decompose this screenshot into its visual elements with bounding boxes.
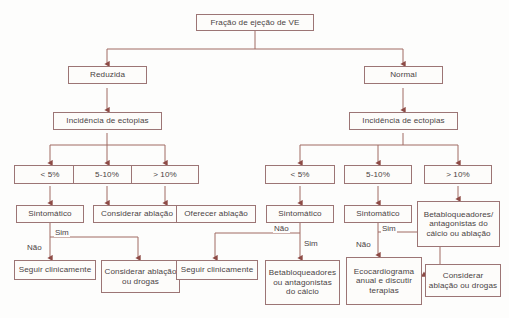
node-right-consider-ablation-drugs[interactable]: Considerar ablação ou drogas xyxy=(425,264,501,297)
edge-label-left-no: Não xyxy=(26,243,43,252)
node-left-pct-mid-label: 5-10% xyxy=(95,170,119,180)
node-right-betablockers-ablation[interactable]: Betabloqueadores/ antagonistas do cálcio… xyxy=(417,201,500,247)
node-right-branch-label: Normal xyxy=(390,70,417,80)
node-right-consider-ablation-drugs-label: Considerar ablação ou drogas xyxy=(428,271,498,290)
node-right-betablockers-ablation-label: Betabloqueadores/ antagonistas do cálcio… xyxy=(420,210,497,239)
node-left-consider-ablation-drugs-label: Considerar ablação ou drogas xyxy=(104,267,177,286)
node-right-symptomatic-low[interactable]: Sintomático xyxy=(266,205,334,223)
flowchart-canvas: Fração de ejeção de VE Reduzida Normal I… xyxy=(0,0,509,318)
node-right-echo-annual-label: Ecocardiograma anual e discutir terapias xyxy=(349,267,419,296)
node-right-ectopy-label: Incidência de ectopias xyxy=(362,116,444,126)
node-right-betablockers-calcium[interactable]: Betabloqueadores ou antagonistas do cálc… xyxy=(265,260,340,305)
node-left-branch[interactable]: Reduzida xyxy=(68,66,147,84)
node-left-symptomatic[interactable]: Sintomático xyxy=(16,205,84,223)
node-left-ectopy-label: Incidência de ectopias xyxy=(66,116,148,126)
node-left-offer-ablation[interactable]: Oferecer ablação xyxy=(176,205,256,223)
node-left-pct-low-label: < 5% xyxy=(40,170,59,180)
edge-label-right-mid-no: Não xyxy=(355,240,372,249)
node-right-symptomatic-mid-label: Sintomático xyxy=(356,209,399,219)
node-right-pct-mid[interactable]: 5-10% xyxy=(344,165,412,184)
node-right-pct-high[interactable]: > 10% xyxy=(424,165,492,184)
edge-label-left-yes: Sim xyxy=(54,228,70,237)
node-left-consider-ablation[interactable]: Considerar ablação xyxy=(93,205,181,223)
node-left-pct-high-label: > 10% xyxy=(153,170,177,180)
node-right-echo-annual[interactable]: Ecocardiograma anual e discutir terapias xyxy=(346,257,422,305)
node-right-pct-low[interactable]: < 5% xyxy=(265,165,335,184)
node-left-ectopy[interactable]: Incidência de ectopias xyxy=(53,112,162,130)
edge-label-right-low-no: Não xyxy=(273,224,290,233)
node-right-pct-mid-label: 5-10% xyxy=(366,170,390,180)
node-root[interactable]: Fração de ejeção de VE xyxy=(196,14,314,31)
node-left-branch-label: Reduzida xyxy=(90,70,125,80)
node-left-pct-high[interactable]: > 10% xyxy=(131,165,199,184)
edge-label-right-low-yes: Sim xyxy=(303,239,319,248)
node-right-symptomatic-low-label: Sintomático xyxy=(278,209,321,219)
node-right-ectopy[interactable]: Incidência de ectopias xyxy=(349,112,458,130)
node-right-follow-clinically[interactable]: Seguir clinicamente xyxy=(176,260,258,280)
node-right-pct-low-label: < 5% xyxy=(290,170,309,180)
node-right-betablockers-calcium-label: Betabloqueadores ou antagonistas do cálc… xyxy=(268,268,337,297)
node-left-follow-clinically[interactable]: Seguir clinicamente xyxy=(14,260,96,280)
node-right-follow-clinically-label: Seguir clinicamente xyxy=(181,265,254,275)
node-left-symptomatic-label: Sintomático xyxy=(28,209,71,219)
node-left-consider-ablation-drugs[interactable]: Considerar ablação ou drogas xyxy=(101,260,180,293)
node-left-follow-clinically-label: Seguir clinicamente xyxy=(19,265,92,275)
node-right-branch[interactable]: Normal xyxy=(364,66,443,84)
node-left-consider-ablation-label: Considerar ablação xyxy=(101,209,173,219)
node-right-symptomatic-mid[interactable]: Sintomático xyxy=(344,205,412,223)
node-right-pct-high-label: > 10% xyxy=(446,170,470,180)
node-root-label: Fração de ejeção de VE xyxy=(210,18,299,28)
edge-label-right-mid-yes: Sim xyxy=(381,224,397,233)
node-left-offer-ablation-label: Oferecer ablação xyxy=(184,209,248,219)
